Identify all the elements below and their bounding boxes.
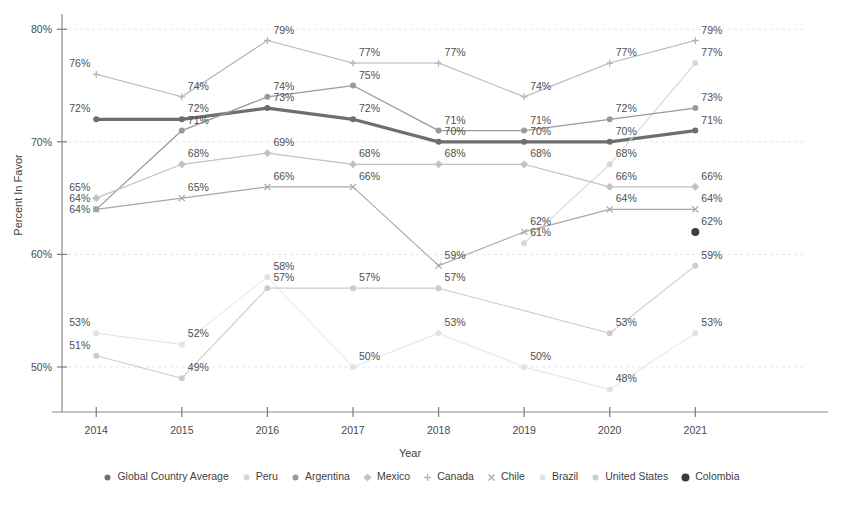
data-point-marker	[105, 474, 111, 480]
data-point-label: 70%	[616, 125, 637, 137]
data-point-marker	[692, 330, 698, 336]
x-tick-label: 2021	[684, 424, 708, 436]
data-point-marker	[607, 161, 613, 167]
series-colombia	[691, 228, 699, 236]
legend-item-global-country-average[interactable]: Global Country Average	[103, 470, 228, 482]
x-tick-label: 2020	[598, 424, 622, 436]
data-point-marker	[691, 228, 699, 236]
data-point-marker	[93, 353, 99, 359]
data-point-marker	[606, 183, 613, 190]
data-point-label: 72%	[359, 102, 380, 114]
data-point-marker	[521, 93, 528, 100]
data-point-label: 58%	[273, 260, 294, 272]
data-point-marker	[93, 330, 99, 336]
series-global-country-average	[93, 105, 698, 145]
data-point-marker	[692, 105, 698, 111]
data-point-label: 53%	[616, 316, 637, 328]
data-point-label: 71%	[188, 114, 209, 126]
legend-item-canada[interactable]: Canada	[423, 470, 474, 482]
data-point-label: 62%	[701, 215, 722, 227]
data-point-marker	[692, 37, 699, 44]
data-point-marker	[682, 473, 690, 481]
series-united-states	[93, 263, 698, 382]
series-chile	[93, 184, 698, 269]
data-point-marker	[292, 474, 298, 480]
data-point-marker	[593, 474, 599, 480]
data-point-label: 75%	[359, 69, 380, 81]
data-point-label: 69%	[273, 136, 294, 148]
data-point-marker	[179, 375, 185, 381]
legend-marker-icon	[538, 472, 547, 481]
data-point-marker	[93, 195, 100, 202]
legend-item-chile[interactable]: Chile	[487, 470, 525, 482]
legend-label: United States	[605, 470, 668, 482]
legend-marker-icon	[487, 472, 496, 481]
data-point-marker	[521, 128, 527, 134]
data-point-label: 79%	[701, 24, 722, 36]
x-tick-label: 2016	[256, 424, 280, 436]
legend-item-united-states[interactable]: United States	[591, 470, 668, 482]
data-point-label: 70%	[445, 125, 466, 137]
data-point-label: 61%	[530, 226, 551, 238]
x-tick-label: 2015	[170, 424, 194, 436]
data-point-marker	[521, 240, 527, 246]
data-point-label: 52%	[188, 327, 209, 339]
data-point-label: 50%	[359, 350, 380, 362]
data-point-label: 77%	[616, 46, 637, 58]
legend-label: Mexico	[377, 470, 410, 482]
series-argentina	[93, 83, 698, 213]
data-point-marker	[350, 83, 356, 89]
y-axis-title: Percent In Favor	[12, 154, 24, 236]
legend-marker-icon	[423, 472, 432, 481]
series-mexico	[93, 149, 699, 201]
legend-item-argentina[interactable]: Argentina	[291, 470, 350, 482]
data-point-marker	[692, 128, 698, 134]
data-point-marker	[93, 71, 100, 78]
data-point-marker	[264, 285, 270, 291]
chart-legend: Global Country AveragePeruArgentinaMexic…	[0, 470, 843, 482]
x-axis-title: Year	[399, 447, 422, 459]
data-point-marker	[607, 139, 613, 145]
series-canada	[93, 37, 699, 100]
data-point-marker	[350, 285, 356, 291]
data-point-marker	[179, 116, 185, 122]
data-point-marker	[349, 161, 356, 168]
data-point-marker	[264, 37, 271, 44]
x-tick-label: 2018	[427, 424, 451, 436]
legend-label: Colombia	[695, 470, 739, 482]
data-point-marker	[350, 364, 356, 370]
data-point-marker	[521, 139, 527, 145]
data-point-marker	[435, 161, 442, 168]
legend-label: Global Country Average	[117, 470, 228, 482]
data-point-label: 71%	[445, 114, 466, 126]
data-point-label: 72%	[69, 102, 90, 114]
data-point-marker	[539, 474, 545, 480]
data-point-label: 68%	[616, 147, 637, 159]
data-point-marker	[692, 263, 698, 269]
data-point-marker	[488, 474, 494, 480]
data-point-label: 48%	[616, 372, 637, 384]
data-point-marker	[264, 274, 270, 280]
y-tick-label: 70%	[31, 136, 52, 148]
data-point-label: 70%	[530, 125, 551, 137]
legend-item-peru[interactable]: Peru	[242, 470, 278, 482]
data-point-label: 72%	[188, 102, 209, 114]
legend-label: Canada	[437, 470, 474, 482]
data-point-label: 73%	[273, 91, 294, 103]
y-tick-label: 50%	[31, 361, 52, 373]
data-point-marker	[692, 183, 699, 190]
data-point-marker	[350, 116, 356, 122]
data-point-label: 65%	[69, 181, 90, 193]
legend-item-mexico[interactable]: Mexico	[363, 470, 410, 482]
series-line	[96, 266, 695, 379]
data-point-label: 65%	[188, 181, 209, 193]
series-line	[96, 86, 695, 210]
data-point-marker	[264, 105, 270, 111]
data-point-label: 72%	[616, 102, 637, 114]
legend-marker-icon	[681, 472, 690, 481]
data-point-label: 59%	[701, 249, 722, 261]
data-point-label: 71%	[701, 114, 722, 126]
legend-label: Peru	[256, 470, 278, 482]
legend-item-colombia[interactable]: Colombia	[681, 470, 739, 482]
legend-item-brazil[interactable]: Brazil	[538, 470, 578, 482]
